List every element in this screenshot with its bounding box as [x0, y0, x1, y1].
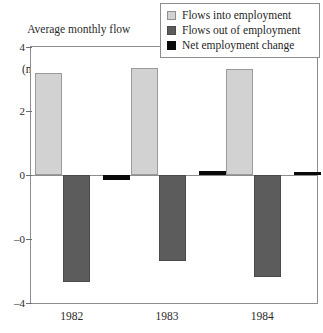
bar-net-change-1984: [294, 172, 321, 175]
x-axis-label-1984: 1984: [251, 310, 274, 322]
y-axis-tick-label: 4: [20, 41, 26, 53]
chart-plot-area: 420–0–4: [31, 47, 317, 303]
bar-flows-in-1982: [35, 73, 62, 175]
legend-label-net-change: Net employment change: [182, 39, 294, 52]
legend-swatch-flows-out-icon: [167, 26, 176, 35]
bar-flows-out-1983: [159, 175, 186, 261]
legend-swatch-net-change-icon: [167, 41, 176, 50]
y-axis-tick-label: –0: [14, 233, 25, 245]
bar-net-change-1982: [103, 175, 130, 180]
chart-plot-frame: 420–0–4: [30, 46, 318, 304]
y-axis-tick: [26, 175, 32, 176]
y-axis-tick: [26, 47, 32, 48]
y-axis-tick-label: 0: [20, 169, 26, 181]
legend-item-flows-out: Flows out of employment: [167, 23, 314, 38]
legend-item-flows-in: Flows into employment: [167, 8, 314, 23]
y-axis-tick: [26, 111, 32, 112]
legend-label-flows-out: Flows out of employment: [182, 24, 301, 37]
x-axis-label-1982: 1982: [60, 310, 83, 322]
bar-net-change-1983: [199, 171, 226, 175]
bar-flows-out-1984: [254, 175, 281, 277]
y-axis-tick-label: 2: [20, 105, 26, 117]
legend-label-flows-in: Flows into employment: [182, 9, 291, 22]
bar-flows-in-1983: [131, 68, 158, 175]
bar-flows-in-1984: [226, 69, 253, 175]
chart-legend: Flows into employment Flows out of emplo…: [160, 3, 320, 58]
x-axis-label-1983: 1983: [156, 310, 179, 322]
bar-flows-out-1982: [63, 175, 90, 282]
y-axis-tick-label: –4: [14, 297, 25, 309]
legend-item-net-change: Net employment change: [167, 38, 314, 53]
y-axis-tick: [26, 239, 32, 240]
y-axis-caption-line1: Average monthly flow: [27, 23, 130, 35]
y-axis-tick: [26, 303, 32, 304]
legend-swatch-flows-in-icon: [167, 11, 176, 20]
